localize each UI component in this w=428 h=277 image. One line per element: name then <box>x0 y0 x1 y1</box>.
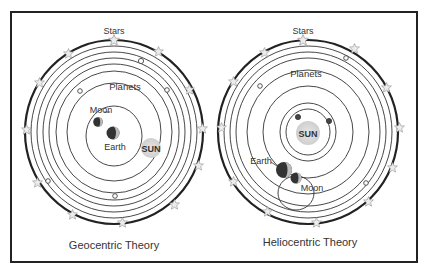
heliocentric-diagram: SUN Stars Planets Earth Moon <box>217 26 405 248</box>
moon <box>291 173 302 184</box>
heliocentric-title: Heliocentric Theory <box>263 236 358 248</box>
earth <box>107 127 120 140</box>
geocentric-title: Geocentric Theory <box>69 239 160 251</box>
geocentric-diagram: SUN Stars Planets Moon Earth <box>22 26 208 251</box>
earth <box>276 162 292 178</box>
earth-label: Earth <box>250 156 272 166</box>
planets-label: Planets <box>109 81 141 92</box>
moon-label: Moon <box>301 183 324 193</box>
astronomy-models-diagram: SUN Stars Planets Moon Earth <box>0 0 428 277</box>
moon-label: Moon <box>90 105 113 115</box>
moon <box>93 117 103 127</box>
earth-label: Earth <box>104 142 126 152</box>
sun-label: SUN <box>298 129 317 139</box>
sun-label: SUN <box>141 144 160 154</box>
planets-label: Planets <box>290 68 322 79</box>
